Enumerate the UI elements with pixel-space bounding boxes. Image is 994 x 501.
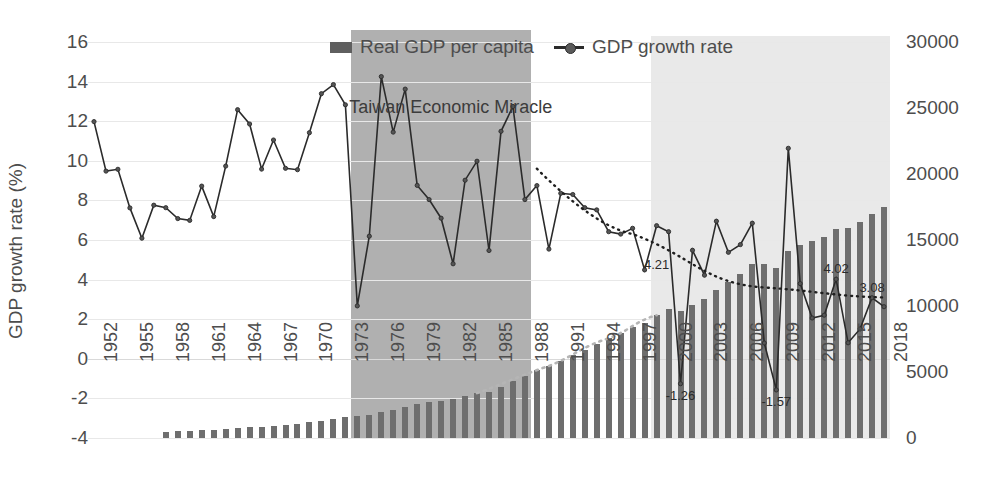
data-point [547,247,551,251]
legend-label-gdp-growth-rate: GDP growth rate [592,36,733,58]
data-point [499,129,503,133]
x-axis-tick-label: 2000 [676,322,697,362]
data-point [463,178,467,182]
gdp-growth-chart: 4.214.023.08-1.26-1.57 1614121086420-2-4… [0,0,994,501]
data-point [810,316,814,320]
y-axis-left-tick-label: 8 [28,189,88,211]
y-axis-left-tick-label: 16 [28,31,88,53]
data-point [224,164,228,168]
data-point [176,217,180,221]
data-point [690,248,694,252]
data-point [607,230,611,234]
x-axis-tick-label: 1985 [496,322,517,362]
data-point [343,103,347,107]
data-label-3neg08: 3.08 [859,280,884,295]
x-axis-tick-label: 1973 [352,322,373,362]
y-axis-right-tick-label: 25000 [906,97,994,119]
data-point [439,216,443,220]
y-axis-right-tick-label: 0 [906,427,994,449]
data-point [487,248,491,252]
x-axis-tick-label: 2012 [819,322,840,362]
y-axis-right-tick-label: 10000 [906,295,994,317]
x-axis-tick-label: 1988 [532,322,553,362]
annotation-taiwan-economic-miracle: Taiwan Economic Miracle [349,97,552,118]
data-point [200,184,204,188]
data-point [619,232,623,236]
data-point [283,166,287,170]
y-axis-left-tick-label: 0 [28,348,88,370]
data-point [260,167,264,171]
data-point [595,208,599,212]
chart-legend: Real GDP per capita GDP growth rate [330,36,733,58]
x-axis-tick-label: 1955 [137,322,158,362]
data-point [750,221,754,225]
data-point [822,313,826,317]
gridline [88,438,890,439]
data-point [714,219,718,223]
x-axis-tick-label: 1952 [101,322,122,362]
y-axis-left-tick-label: 14 [28,71,88,93]
x-axis-tick-label: 1991 [568,322,589,362]
y-axis-left-tick-label: -2 [28,387,88,409]
data-point [367,234,371,238]
data-point [451,262,455,266]
x-axis-tick-label: 2009 [783,322,804,362]
y-axis-right-tick-label: 20000 [906,163,994,185]
data-point [271,138,275,142]
data-point [331,83,335,87]
data-point [212,215,216,219]
x-axis-tick-label: 1976 [388,322,409,362]
y-axis-right-tick-label: 5000 [906,361,994,383]
y-axis-left-tick-label: 10 [28,150,88,172]
data-point [798,282,802,286]
data-point [834,277,838,281]
x-axis-tick-label: 1982 [460,322,481,362]
x-axis-tick-label: 2018 [891,322,912,362]
x-axis-tick-label: 1961 [209,322,230,362]
x-axis-tick-label: 1958 [173,322,194,362]
y-axis-left-tick-label: 4 [28,269,88,291]
data-point [164,206,168,210]
data-point [523,198,527,202]
data-point [726,250,730,254]
data-point [319,92,323,96]
data-point [631,226,635,230]
x-axis-tick-label: 2003 [711,322,732,362]
data-point [882,305,886,309]
data-point [92,120,96,124]
x-axis-tick-label: 1967 [281,322,302,362]
data-label-4neg02: 4.02 [823,261,848,276]
x-axis-tick-label: 2006 [747,322,768,362]
y-axis-right-tick-label: 30000 [906,31,994,53]
x-axis-tick-label: 1997 [640,322,661,362]
legend-bar-swatch-icon [330,42,352,53]
data-point [678,382,682,386]
data-point [128,206,132,210]
x-axis-tick-label: 1964 [245,322,266,362]
y-axis-left-title: GDP growth rate (%) [5,101,27,401]
data-point [655,224,659,228]
data-point [702,273,706,277]
legend-label-real-gdp-per-capita: Real GDP per capita [360,36,534,58]
data-label-neg1-57: -1.57 [761,394,791,409]
y-axis-right-tick-label: 15000 [906,229,994,251]
data-point [667,230,671,234]
data-point [738,243,742,247]
data-point [104,169,108,173]
y-axis-left-tick-label: -4 [28,427,88,449]
y-axis-left-tick-label: 2 [28,308,88,330]
data-point [391,130,395,134]
x-axis-tick-label: 1994 [604,322,625,362]
gdp-growth-trend-dotted [537,169,884,298]
data-point [307,131,311,135]
data-point [774,388,778,392]
x-axis-tick-label: 1979 [424,322,445,362]
data-point [427,198,431,202]
data-point [140,236,144,240]
data-point [571,192,575,196]
data-point [152,203,156,207]
legend-line-marker-icon [554,46,584,49]
x-axis-tick-label: 1970 [316,322,337,362]
data-point [295,168,299,172]
data-label-neg1-26: -1.26 [666,388,696,403]
